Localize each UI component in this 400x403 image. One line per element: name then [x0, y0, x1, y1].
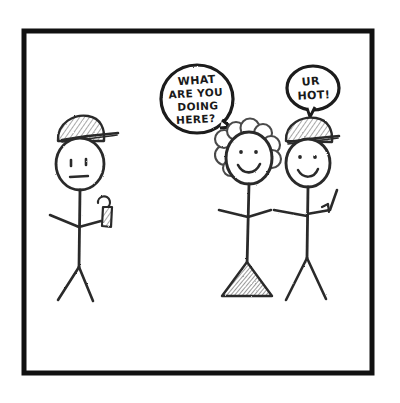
head	[56, 138, 104, 190]
eye-left	[298, 155, 302, 159]
torso	[307, 187, 308, 258]
eye-left	[239, 150, 243, 154]
speech-bubble-question: WHAT ARE YOU DOING HERE?	[161, 65, 233, 133]
bubble-line-2: HOT!	[297, 88, 330, 103]
bubble-line-1: UR	[301, 74, 320, 89]
comic-panel: WHAT ARE YOU DOING HERE? UR HOT!	[0, 0, 400, 403]
bubble-line-3: DOING	[177, 99, 218, 112]
bubble-body	[287, 66, 339, 110]
head	[226, 132, 272, 184]
bubble-line-4: HERE?	[176, 112, 216, 126]
torso	[79, 190, 80, 267]
comic-canvas: WHAT ARE YOU DOING HERE? UR HOT!	[0, 0, 400, 403]
eye-right	[254, 150, 258, 154]
mouth	[70, 176, 88, 177]
head	[286, 139, 330, 187]
eye-right	[313, 155, 317, 159]
torso	[247, 184, 249, 266]
